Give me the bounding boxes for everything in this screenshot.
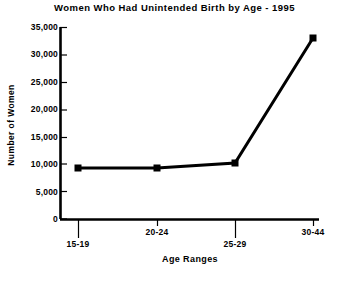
data-line-number-of-women: [78, 38, 313, 168]
data-point-marker: [232, 160, 239, 167]
x-axis-ticks: [79, 219, 314, 238]
data-point-marker: [310, 35, 317, 42]
data-point-markers: [75, 35, 317, 172]
chart-container: Women Who Had Unintended Birth by Age - …: [0, 0, 349, 282]
data-point-marker: [154, 165, 161, 172]
plot-area: [0, 0, 349, 282]
data-point-marker: [75, 165, 82, 172]
